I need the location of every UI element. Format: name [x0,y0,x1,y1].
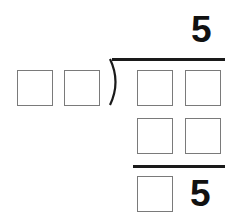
dividend-digit-box-1[interactable] [137,70,173,106]
remainder-known-digit: 5 [190,175,211,212]
division-bracket-icon [106,57,124,107]
product-digit-box-2[interactable] [185,118,221,154]
division-bar [112,58,225,61]
product-digit-box-1[interactable] [137,118,173,154]
divisor-digit-box-2[interactable] [64,70,100,106]
dividend-digit-box-2[interactable] [185,70,221,106]
quotient-digit: 5 [191,11,212,48]
remainder-digit-box-1[interactable] [137,176,173,212]
subtraction-line [133,165,225,168]
divisor-digit-box-1[interactable] [17,70,53,106]
